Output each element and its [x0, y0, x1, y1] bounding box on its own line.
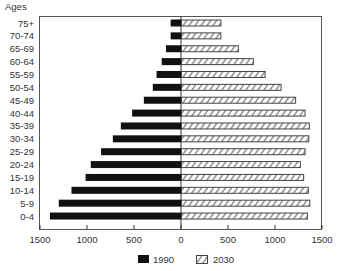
legend-swatch-1990: [138, 255, 149, 263]
bar-2030: [182, 149, 306, 155]
bar-1990: [121, 122, 181, 129]
y-tick-label: 30-34: [10, 133, 34, 144]
bar-2030: [182, 33, 221, 39]
y-tick-label: 70-74: [10, 30, 34, 41]
legend-swatch-2030: [197, 256, 208, 264]
x-tick-label: 500: [220, 234, 236, 245]
bar-2030: [182, 20, 221, 26]
y-tick-label: 25-29: [10, 146, 34, 157]
x-tick-label: 1500: [311, 234, 332, 245]
y-axis-labels: 75+70-7465-6960-6455-5950-5445-4940-4435…: [10, 18, 35, 222]
x-tick-label: 0: [178, 234, 183, 245]
y-tick-label: 40-44: [10, 108, 34, 119]
bar-2030: [182, 162, 301, 168]
bar-1990: [59, 200, 181, 207]
bar-1990: [153, 84, 181, 91]
bar-1990: [162, 58, 181, 65]
bar-2030: [182, 136, 309, 142]
bar-2030: [182, 71, 266, 77]
y-tick-label: 5-9: [20, 198, 34, 209]
legend-label-1990: 1990: [153, 254, 174, 265]
bar-2030: [182, 110, 306, 116]
legend-label-2030: 2030: [213, 254, 234, 265]
x-tick-label: 500: [126, 234, 142, 245]
bar-2030: [182, 84, 282, 90]
y-tick-label: 20-24: [10, 159, 34, 170]
bar-1990: [144, 97, 181, 104]
x-tick-label: 1000: [264, 234, 285, 245]
y-tick-label: 75+: [18, 18, 35, 29]
bar-1990: [91, 161, 181, 168]
bar-2030: [182, 97, 296, 103]
bar-1990: [86, 174, 181, 181]
bar-2030: [182, 174, 304, 180]
bar-1990: [157, 71, 181, 78]
y-tick-label: 55-59: [10, 69, 34, 80]
x-tick-label: 1500: [29, 234, 50, 245]
y-tick-label: 60-64: [10, 56, 34, 67]
bar-2030: [182, 59, 254, 65]
bar-2030: [182, 123, 310, 129]
population-pyramid-chart: Ages 75+70-7465-6960-6455-5950-5445-4940…: [0, 0, 337, 271]
bar-2030: [182, 200, 310, 206]
bar-1990: [132, 110, 181, 117]
x-axis: 15001000500050010001500: [29, 225, 332, 245]
bar-1990: [71, 187, 181, 194]
y-tick-label: 0-4: [20, 211, 34, 222]
y-tick-label: 50-54: [10, 82, 34, 93]
bar-1990: [50, 213, 181, 220]
bar-2030: [182, 213, 308, 219]
bar-1990: [171, 32, 181, 39]
y-tick-label: 10-14: [10, 185, 34, 196]
bars-group: [50, 20, 310, 220]
bar-2030: [182, 187, 309, 193]
y-tick-label: 15-19: [10, 172, 34, 183]
legend: 1990 2030: [138, 254, 234, 265]
bar-2030: [182, 46, 239, 52]
y-tick-label: 65-69: [10, 43, 34, 54]
bar-1990: [101, 148, 181, 155]
y-axis-title: Ages: [5, 1, 27, 12]
bar-1990: [166, 45, 181, 52]
bar-1990: [171, 20, 181, 27]
y-tick-label: 45-49: [10, 95, 34, 106]
x-tick-label: 1000: [76, 234, 97, 245]
bar-1990: [113, 135, 181, 142]
y-tick-label: 35-39: [10, 120, 34, 131]
